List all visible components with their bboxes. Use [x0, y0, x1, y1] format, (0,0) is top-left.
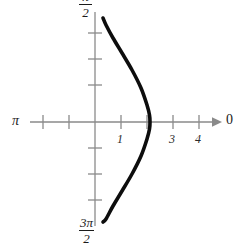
x-tick-label-4: 4	[195, 133, 201, 145]
x-axis-left-label: π	[12, 114, 19, 128]
x-tick-label-3: 3	[169, 133, 175, 145]
y-axis-bottom-numerator: 3π	[79, 216, 94, 229]
plot-curve	[103, 18, 150, 222]
plot-canvas	[0, 0, 244, 248]
y-axis-bottom-denominator: 2	[82, 232, 91, 245]
y-axis-top-denominator: 2	[81, 6, 90, 19]
y-axis-bottom-label: 3π 2	[79, 216, 94, 246]
x-axis-arrowhead	[212, 117, 222, 126]
y-axis-top-numerator: π	[81, 0, 90, 3]
graph-figure: π 0 1 3 4 π 2 3π 2	[0, 0, 244, 248]
x-axis-right-label: 0	[226, 113, 233, 127]
x-tick-label-1: 1	[117, 133, 123, 145]
y-axis-top-label: π 2	[79, 0, 92, 20]
